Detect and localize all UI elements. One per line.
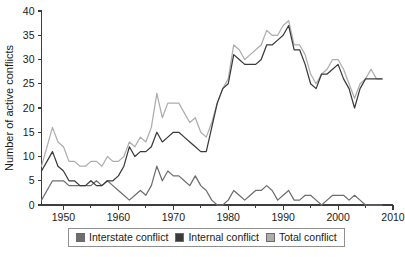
- series-line-interstate-conflict: [42, 166, 383, 205]
- y-tick-label: 0: [29, 199, 35, 211]
- x-tick-label: 1990: [271, 211, 295, 223]
- legend-label: Total conflict: [279, 232, 337, 243]
- x-tick-label: 1950: [52, 211, 76, 223]
- series-lines: [42, 21, 383, 205]
- x-tick-label: 1970: [162, 211, 186, 223]
- x-tick-label: 2000: [326, 211, 350, 223]
- legend-swatch-icon: [266, 233, 275, 242]
- y-tick-label: 15: [23, 126, 35, 138]
- legend-swatch-icon: [175, 233, 184, 242]
- x-tick-label: 1980: [217, 211, 241, 223]
- x-axis: 1950196019701980199020002010: [42, 205, 405, 223]
- y-tick-label: 20: [23, 102, 35, 114]
- series-line-total-conflict: [42, 21, 383, 167]
- x-tick-label: 1960: [107, 211, 131, 223]
- legend-item-interstate-conflict[interactable]: Interstate conflict: [76, 232, 168, 243]
- y-tick-label: 25: [23, 77, 35, 89]
- y-axis: 0510152025303540: [23, 5, 42, 211]
- legend-item-internal-conflict[interactable]: Internal conflict: [175, 232, 259, 243]
- y-tick-label: 30: [23, 53, 35, 65]
- chart-plot-area: 0510152025303540 19501960197019801990200…: [0, 0, 405, 257]
- legend-label: Interstate conflict: [89, 232, 168, 243]
- chart-legend: Interstate conflictInternal conflictTota…: [68, 228, 345, 247]
- y-tick-label: 10: [23, 150, 35, 162]
- y-axis-title: Number of active conflicts: [3, 45, 15, 171]
- legend-item-total-conflict[interactable]: Total conflict: [266, 232, 337, 243]
- legend-label: Internal conflict: [188, 232, 259, 243]
- y-tick-label: 5: [29, 174, 35, 186]
- conflicts-line-chart: 0510152025303540 19501960197019801990200…: [0, 0, 405, 257]
- legend-swatch-icon: [76, 233, 85, 242]
- y-tick-label: 40: [23, 5, 35, 17]
- x-tick-label: 2010: [381, 211, 405, 223]
- y-tick-label: 35: [23, 29, 35, 41]
